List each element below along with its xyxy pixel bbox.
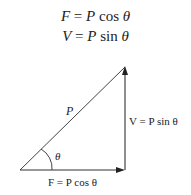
- hypotenuse-label: P: [66, 104, 73, 119]
- force-triangle-diagram: [0, 0, 191, 195]
- angle-label: θ: [55, 150, 60, 162]
- arrowhead-right-icon: [116, 167, 125, 173]
- horizontal-label: F = P cos θ: [48, 176, 97, 188]
- vertical-label: V = P sin θ: [129, 115, 178, 127]
- arrowhead-up-icon: [122, 66, 128, 75]
- angle-arc: [41, 149, 52, 170]
